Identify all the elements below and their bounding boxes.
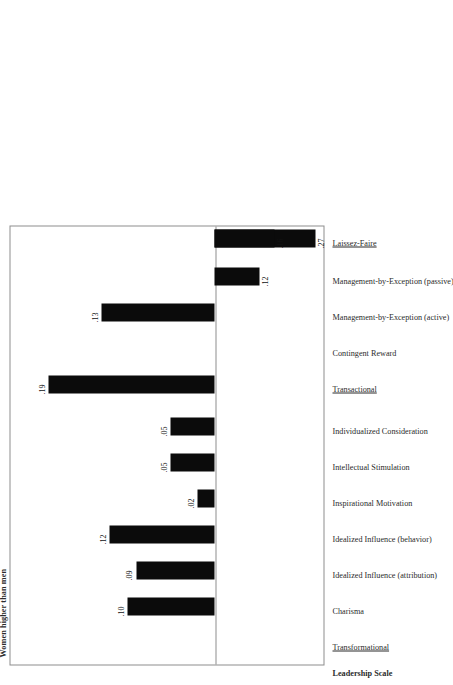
- bar-group: .05: [9, 449, 324, 475]
- bar-group: .12: [9, 263, 324, 289]
- bar: [214, 229, 274, 247]
- bar-value-label: .02: [186, 498, 195, 508]
- bar-value-label: .10: [116, 606, 125, 616]
- bar-value-label: .12: [260, 276, 269, 286]
- bar: [109, 525, 214, 543]
- bar: [170, 417, 214, 435]
- bar-value-label: .09: [124, 570, 133, 580]
- bar-group: .02: [9, 485, 324, 511]
- category-label-2: Idealized Influence (attribution): [332, 570, 437, 579]
- category-label-8: Contingent Reward: [332, 348, 396, 357]
- bar-value-label: .12: [98, 534, 107, 544]
- bar-group: .10: [9, 593, 324, 619]
- category-axis-labels: Leadership ScaleTransformationalCharisma…: [332, 225, 349, 665]
- bar-group: .05: [9, 413, 324, 439]
- bar: [170, 453, 214, 471]
- category-label-9: Management-by-Exception (active): [332, 312, 449, 321]
- bar-group: .09: [9, 557, 324, 583]
- bar-group: .16: [9, 225, 324, 251]
- bar: [214, 267, 259, 285]
- category-label-1: Charisma: [332, 606, 363, 615]
- bar-group: .19: [9, 371, 324, 397]
- bar-group: .13: [9, 299, 324, 325]
- category-label-3: Idealized Influence (behavior): [332, 534, 431, 543]
- category-label-0: Transformational: [332, 642, 389, 651]
- axis-caption-positive: Women higher than men: [0, 568, 7, 657]
- bar-value-label: .05: [159, 426, 168, 436]
- category-label-5: Intellectual Stimulation: [332, 462, 409, 471]
- category-label-6: Individualized Consideration: [332, 426, 427, 435]
- bar: [48, 375, 214, 393]
- bar: [136, 561, 215, 579]
- legend-header: Leadership Scale: [332, 668, 392, 677]
- category-label-10: Management-by-Exception (passive): [332, 276, 453, 285]
- category-label-4: Inspirational Motivation: [332, 498, 412, 507]
- bar-value-label: .05: [159, 462, 168, 472]
- category-label-11: Laissez-Faire: [332, 238, 376, 247]
- bar-value-label: .16: [275, 238, 284, 248]
- bar: [127, 597, 214, 615]
- category-label-7: Transactional: [332, 384, 376, 393]
- bar: [197, 489, 214, 507]
- bar-group: .12: [9, 521, 324, 547]
- bar-value-label: .13: [90, 312, 99, 322]
- bar-value-label: .19: [37, 384, 46, 394]
- bar-series: .10.09.12.02.05.05.19.13.12.27.16: [9, 225, 324, 665]
- bar: [101, 303, 214, 321]
